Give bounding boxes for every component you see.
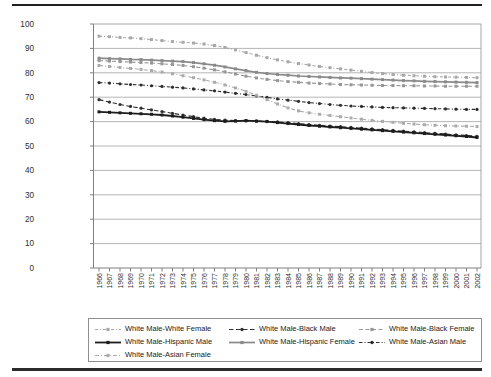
data-point (350, 116, 353, 119)
data-point (465, 135, 468, 138)
data-point (297, 81, 300, 84)
data-point (234, 48, 237, 51)
x-axis-label: 1972 (159, 273, 166, 289)
data-point (381, 106, 384, 109)
x-axis-label: 1993 (379, 273, 386, 289)
data-point (182, 74, 185, 77)
bottom-rule (12, 368, 482, 371)
legend-item-white-male-black-female: White Male-Black Female (359, 323, 485, 335)
data-point (98, 35, 101, 38)
data-point (371, 119, 374, 122)
data-point (297, 100, 300, 103)
series-line-2 (99, 100, 477, 137)
x-axis-label: 1971 (148, 273, 155, 289)
data-point (161, 39, 164, 42)
series-line-6 (99, 83, 477, 110)
y-axis-label: 30 (25, 191, 35, 200)
data-point (413, 79, 416, 82)
y-axis-label: 40 (25, 166, 35, 175)
data-point (392, 73, 395, 76)
data-point (276, 58, 279, 61)
data-point (444, 85, 447, 88)
data-point (224, 70, 227, 73)
legend-label: White Male-White Female (125, 323, 211, 335)
legend-item-white-male-hispanic-female: White Male-Hispanic Female (229, 336, 359, 348)
data-point (182, 60, 185, 63)
data-point (402, 106, 405, 109)
data-point (213, 44, 216, 47)
data-point (360, 70, 363, 73)
data-point (455, 124, 458, 127)
data-point (318, 113, 321, 116)
data-point (434, 133, 437, 136)
x-axis-label: 1990 (348, 273, 355, 289)
data-point (108, 100, 111, 103)
data-point (392, 79, 395, 82)
data-point (119, 57, 122, 60)
data-point (371, 128, 374, 131)
data-point (139, 107, 142, 110)
data-point (171, 114, 174, 117)
data-point (119, 111, 122, 114)
x-axis-label: 1968 (117, 273, 124, 289)
data-point (140, 58, 143, 61)
data-point (129, 61, 132, 64)
data-point (465, 125, 468, 128)
x-axis-label: 1979 (232, 273, 239, 289)
data-point (412, 107, 415, 110)
legend-label: White Male-Hispanic Female (259, 336, 355, 348)
data-point (423, 75, 426, 78)
legend-marker (240, 340, 243, 343)
data-point (203, 62, 206, 65)
data-point (423, 123, 426, 126)
data-point (203, 78, 206, 81)
data-point (434, 124, 437, 127)
data-point (129, 36, 132, 39)
data-point (108, 57, 111, 60)
data-point (444, 80, 447, 83)
legend-swatch (229, 325, 255, 334)
data-point (350, 127, 353, 130)
data-point (108, 65, 111, 68)
data-point (224, 120, 227, 123)
y-axis-label: 100 (20, 20, 34, 29)
x-axis-label: 2002 (474, 273, 481, 289)
x-axis-label: 1981 (253, 273, 260, 289)
data-point (203, 43, 206, 46)
y-axis-label: 90 (25, 44, 35, 53)
data-point (129, 105, 132, 108)
x-axis-label: 1970 (138, 273, 145, 289)
legend-label: White Male-Black Female (389, 323, 474, 335)
data-point (307, 101, 310, 104)
legend-label: White Male-Black Male (259, 323, 336, 335)
x-axis-label: 2000 (453, 273, 460, 289)
data-point (266, 78, 269, 81)
x-axis-label: 1982 (264, 273, 271, 289)
data-point (224, 65, 227, 68)
data-point (140, 61, 143, 64)
data-point (339, 76, 342, 79)
y-axis-label: 10 (25, 239, 35, 248)
data-point (455, 76, 458, 79)
data-point (192, 117, 195, 120)
x-axis-label: 1980 (243, 273, 250, 289)
data-point (287, 80, 290, 83)
x-axis-label: 1974 (180, 273, 187, 289)
data-point (224, 46, 227, 49)
data-point (171, 60, 174, 63)
data-point (349, 104, 352, 107)
legend-marker (106, 353, 109, 356)
legend-item-white-male-hispanic-male: White Male-Hispanic Male (95, 336, 229, 348)
data-point (329, 83, 332, 86)
data-point (171, 112, 174, 115)
data-point (360, 105, 363, 108)
data-point (234, 120, 237, 123)
data-point (454, 108, 457, 111)
data-point (391, 106, 394, 109)
data-point (371, 84, 374, 87)
data-point (266, 98, 269, 101)
data-point (329, 66, 332, 69)
x-axis-label: 1984 (285, 273, 292, 289)
data-point (297, 123, 300, 126)
x-axis-label: 1988 (327, 273, 334, 289)
